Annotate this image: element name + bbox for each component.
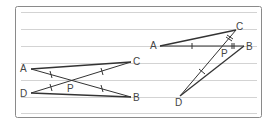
label-b-right: B <box>246 41 253 52</box>
label-a-right: A <box>150 40 157 51</box>
label-c-right: C <box>236 21 243 32</box>
label-a-left: A <box>20 63 27 74</box>
label-p-right: P <box>221 48 228 59</box>
geometry-figure: A C D B P A C B D P <box>0 0 279 125</box>
label-b-left: B <box>133 92 140 103</box>
label-c-left: C <box>133 56 140 67</box>
label-d-right: D <box>175 97 182 108</box>
label-d-left: D <box>20 88 27 99</box>
label-p-left: P <box>67 83 74 94</box>
